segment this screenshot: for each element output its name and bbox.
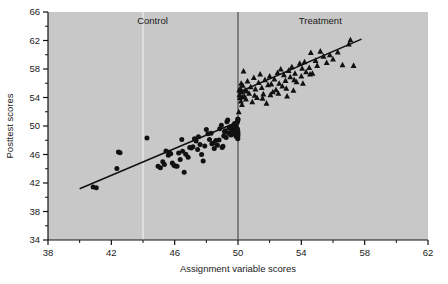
y-tick-label: 38: [29, 206, 40, 217]
x-tick-label: 54: [296, 247, 307, 258]
x-tick-label: 62: [423, 247, 434, 258]
data-point-circle: [220, 144, 225, 149]
data-point-circle: [204, 127, 209, 132]
data-point-circle: [182, 170, 187, 175]
data-point-circle: [224, 135, 229, 140]
y-tick-label: 34: [29, 234, 40, 245]
data-point-circle: [162, 162, 167, 167]
data-point-circle: [179, 137, 184, 142]
data-point-circle: [168, 151, 173, 156]
data-point-circle: [219, 123, 224, 128]
y-tick-label: 62: [29, 35, 40, 46]
group-label-control: Control: [137, 15, 168, 26]
data-point-circle: [158, 165, 163, 170]
regression-discontinuity-figure: 34384246505458626638424650545862Assignme…: [0, 0, 448, 284]
data-point-circle: [175, 164, 180, 169]
data-point-circle: [236, 117, 241, 122]
data-point-circle: [202, 143, 207, 148]
y-tick-label: 58: [29, 63, 40, 74]
x-axis-title: Assignment variable scores: [180, 263, 296, 274]
data-point-circle: [186, 155, 191, 160]
data-point-circle: [114, 166, 119, 171]
data-point-circle: [207, 137, 212, 142]
data-point-circle: [195, 147, 200, 152]
y-tick-label: 54: [29, 92, 40, 103]
data-point-circle: [199, 152, 204, 157]
x-tick-label: 58: [359, 247, 370, 258]
x-tick-label: 50: [233, 247, 244, 258]
x-tick-label: 46: [169, 247, 180, 258]
data-point-circle: [201, 158, 206, 163]
data-point-circle: [215, 143, 220, 148]
y-axis-title: Posttest scores: [4, 93, 15, 158]
data-point-circle: [217, 137, 222, 142]
y-tick-label: 50: [29, 120, 40, 131]
y-tick-label: 66: [29, 6, 40, 17]
data-point-circle: [178, 157, 183, 162]
x-tick-label: 42: [106, 247, 117, 258]
data-point-circle: [225, 117, 230, 122]
data-point-circle: [190, 144, 195, 149]
data-point-circle: [94, 185, 99, 190]
data-point-circle: [118, 150, 123, 155]
x-tick-label: 38: [43, 247, 54, 258]
data-point-circle: [198, 142, 203, 147]
y-tick-label: 46: [29, 149, 40, 160]
scatter-plot-canvas: 34384246505458626638424650545862Assignme…: [0, 0, 448, 284]
group-label-treatment: Treatment: [299, 15, 342, 26]
data-point-circle: [236, 133, 241, 138]
y-tick-label: 42: [29, 177, 40, 188]
data-point-circle: [144, 136, 149, 141]
